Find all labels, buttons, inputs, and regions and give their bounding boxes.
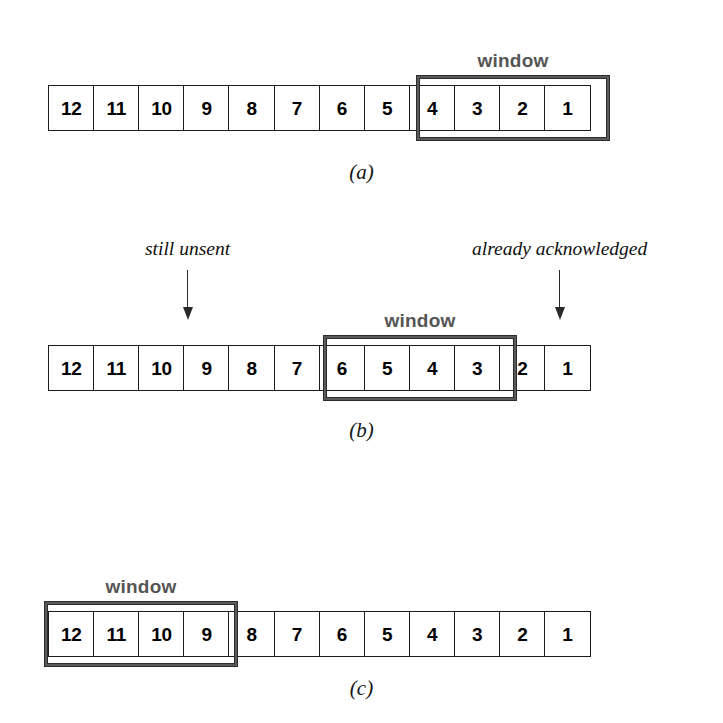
panel-b: still unsent already acknowledged window… [0, 232, 723, 457]
frame-cell: 2 [499, 85, 546, 131]
frame-cell: 11 [93, 85, 140, 131]
annotation-arrow-already-acknowledged [553, 270, 567, 320]
panel-caption-a: (a) [0, 160, 723, 185]
frame-cell: 7 [274, 611, 321, 657]
frame-cell: 9 [183, 611, 230, 657]
frame-cell: 7 [274, 345, 321, 391]
frame-cell: 12 [48, 85, 95, 131]
frame-strip-b: 12 11 10 9 8 7 6 5 4 3 2 1 [48, 345, 591, 391]
sliding-window-figure: window 12 11 10 9 8 7 6 5 4 3 2 1 (a) st… [0, 0, 723, 723]
frame-cell: 3 [454, 611, 501, 657]
frame-cell: 1 [544, 611, 591, 657]
panel-a: window 12 11 10 9 8 7 6 5 4 3 2 1 (a) [0, 22, 723, 207]
frame-cell: 5 [364, 85, 411, 131]
panel-caption-b: (b) [0, 418, 723, 443]
frame-cell: 3 [454, 85, 501, 131]
window-label-a: window [416, 50, 610, 72]
window-label-b: window [323, 310, 517, 332]
panel-caption-c: (c) [0, 676, 723, 701]
frame-strip-c: 12 11 10 9 8 7 6 5 4 3 2 1 [48, 611, 591, 657]
frame-cell: 4 [409, 85, 456, 131]
frame-strip-a: 12 11 10 9 8 7 6 5 4 3 2 1 [48, 85, 591, 131]
annotation-arrow-still-unsent [181, 270, 195, 320]
frame-cell: 1 [544, 85, 591, 131]
frame-cell: 12 [48, 611, 95, 657]
window-label-c: window [44, 576, 238, 598]
panel-c: window 12 11 10 9 8 7 6 5 4 3 2 1 (c) [0, 545, 723, 723]
frame-cell: 10 [138, 345, 185, 391]
frame-cell: 3 [454, 345, 501, 391]
frame-cell: 12 [48, 345, 95, 391]
frame-cell: 4 [409, 611, 456, 657]
frame-cell: 9 [183, 85, 230, 131]
frame-cell: 9 [183, 345, 230, 391]
frame-cell: 11 [93, 611, 140, 657]
annotation-already-acknowledged: already acknowledged [472, 238, 647, 260]
frame-cell: 6 [319, 85, 366, 131]
frame-cell: 2 [499, 611, 546, 657]
annotation-still-unsent: still unsent [145, 238, 230, 260]
frame-cell: 4 [409, 345, 456, 391]
frame-cell: 10 [138, 85, 185, 131]
frame-cell: 8 [228, 611, 275, 657]
frame-cell: 6 [319, 345, 366, 391]
frame-cell: 11 [93, 345, 140, 391]
frame-cell: 6 [319, 611, 366, 657]
frame-cell: 1 [544, 345, 591, 391]
frame-cell: 5 [364, 345, 411, 391]
frame-cell: 8 [228, 345, 275, 391]
frame-cell: 8 [228, 85, 275, 131]
frame-cell: 7 [274, 85, 321, 131]
frame-cell: 5 [364, 611, 411, 657]
frame-cell: 2 [499, 345, 546, 391]
frame-cell: 10 [138, 611, 185, 657]
